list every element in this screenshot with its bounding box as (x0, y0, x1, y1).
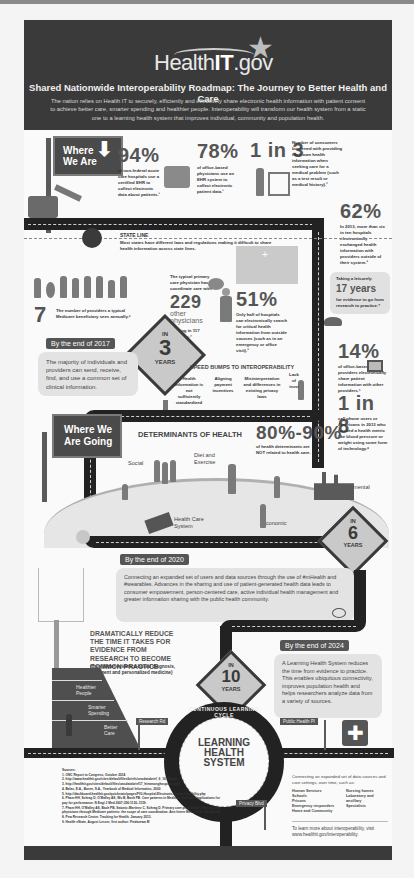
road-segment (354, 570, 366, 620)
social-figure (170, 460, 176, 482)
learn-more-link[interactable]: To learn more about interoperability, vi… (292, 826, 388, 838)
header-description: The nation relies on Health IT to secure… (48, 97, 368, 122)
determinant-social: Social (128, 460, 143, 467)
infographic-poster: ★ HealthIT.gov Shared Nationwide Interop… (24, 20, 392, 860)
data-sources-col2: Nursing homes Laboratory and ancillary S… (346, 789, 386, 815)
stat-94-text: of non-federal acute care hospitals use … (118, 168, 162, 198)
stat-1in8-text: cell phone users or Americans in 2013 wh… (338, 416, 388, 452)
where-we-are-going-sign: Where We Are Going (52, 414, 122, 458)
street-sign-privacy-blvd: Privacy Blvd (236, 800, 267, 807)
road-lane-marking (232, 626, 356, 627)
street-sign-public-health-pl: Public Health Pl (280, 718, 318, 725)
speed-bump-item: Lack of trust (288, 372, 300, 390)
excavator-arm-icon (54, 184, 82, 201)
hospital-building-icon: + (236, 246, 298, 284)
milestone-2017-tag: By the end of 2017 (46, 338, 115, 349)
ambulance-icon: ✚ (342, 720, 368, 746)
ramp-label-smarter-spending: Smarter Spending (88, 704, 118, 716)
milestone-10-years-text: IN 10 YEARS (206, 662, 256, 692)
stat-51-text: Only half of hospitals can electronicall… (236, 312, 288, 354)
exercise-figure (228, 464, 236, 494)
footer-bar (24, 846, 392, 860)
data-sources-block: Connecting an expanded set of data sourc… (292, 774, 388, 838)
walking-person-figure (66, 714, 72, 736)
hand-truck-icon (268, 172, 290, 196)
speed-bumps-title: SPEED BUMPS TO INTEROPERABILITY (190, 364, 294, 370)
milestone-3-years-text: IN 3 YEARS (136, 331, 194, 365)
street-sign-pole (324, 720, 326, 750)
ramp-step (52, 680, 102, 681)
stat-1in3-text: Number of consumers burdened with provid… (292, 140, 344, 188)
determinant-health-care-system: Health Care System (174, 516, 208, 530)
cyclist-icon (332, 608, 346, 618)
milestone-6-years-text: IN 6 YEARS (328, 518, 378, 548)
determinants-text: of health determinants are NOT related t… (256, 444, 312, 456)
stat-78-value: 78% (197, 140, 239, 163)
milestone-2024-text: A Learning Health System reduces the tim… (274, 654, 382, 718)
where-we-are-sign: Where We Are ⬇ (53, 136, 123, 176)
tennis-player-figure (122, 484, 128, 500)
determinants-value: 80%-90% (256, 422, 342, 444)
determinant-diet-exercise: Diet and Exercise (194, 452, 224, 466)
header-banner: ★ HealthIT.gov Shared Nationwide Interop… (24, 20, 392, 130)
divider (292, 821, 388, 822)
speed-bump-item: Health information is not sufficiently s… (174, 376, 204, 406)
us-map-icon (82, 228, 102, 248)
ramp-step (52, 720, 128, 721)
state-line-title: STATE LINE (120, 232, 151, 238)
evidence-block-subtitle: (thus better evidence-based diagnosis, t… (90, 664, 186, 676)
stat-7-value: 7 (34, 302, 47, 328)
tablet-icon (164, 166, 190, 188)
milestone-2024-tag: By the end of 2024 (280, 640, 349, 651)
frame-outline (38, 568, 84, 622)
speed-bump-item: Misinterpretation and differences in exi… (242, 376, 282, 400)
speed-bump-item: Aligning payment incentives (212, 376, 234, 394)
people-group-illustration (34, 272, 129, 298)
road-lane-marking (28, 224, 313, 225)
stat-78-text: of office-based physicians use an EHR sy… (197, 165, 237, 195)
evidence-intro: Taking a leisurely (336, 276, 386, 282)
stat-62-value: 62% (340, 200, 382, 223)
ramp-label-healthier-people: Healthier People (76, 684, 106, 696)
speech-bubble-icon (208, 278, 224, 290)
computer-monitor-icon (367, 360, 383, 372)
stat-62-text: In 2013, more than six in ten hospitals … (340, 224, 388, 266)
window-top-bar (0, 0, 414, 4)
evidence-value: 17 years (336, 283, 376, 294)
businesswoman-figure (260, 504, 266, 528)
yoga-figure (274, 476, 280, 498)
street-sign-research-rd: Research Rd (136, 718, 168, 725)
milestone-2020-text: Connecting an expanded set of users and … (116, 568, 354, 622)
doctor-figure (220, 296, 232, 322)
continuous-learning-cycle-label: CONTINUOUS LEARNING CYCLE (183, 706, 265, 718)
road-lane-marking (96, 416, 310, 417)
sign-pole (54, 620, 59, 670)
doctor-head (222, 288, 230, 296)
sign-pole (42, 432, 47, 502)
social-figure (162, 462, 168, 484)
state-line-divider (24, 238, 392, 239)
down-arrow-icon: ⬇ (96, 144, 113, 155)
determinants-title: DETERMINANTS OF HEALTH (138, 430, 242, 439)
learning-health-system-title: LEARNING HEALTH SYSTEM (179, 738, 269, 768)
factory-icon (314, 472, 354, 500)
excavator-icon (28, 196, 58, 218)
stat-51-value: 51% (236, 288, 278, 311)
sources-list: Sources: 1. ONC Report to Congress, Octo… (62, 768, 222, 824)
stat-229-label: other physicians (170, 310, 210, 324)
tree-icon (76, 530, 90, 544)
healthit-logo[interactable]: HealthIT.gov (154, 50, 273, 76)
stat-7-text: The number of providers a typical Medica… (56, 308, 136, 320)
data-sources-intro: Connecting an expanded set of data sourc… (292, 774, 388, 786)
social-figure (154, 460, 160, 482)
ramp-step (52, 700, 114, 701)
ramp-label-better-care: Better Care (104, 724, 124, 736)
stat-94-value: 94% (118, 144, 160, 167)
worker-figure (256, 168, 264, 196)
milestone-2017-text: The majority of individuals and provider… (38, 352, 138, 396)
evidence-text: for evidence to go from research to prac… (336, 297, 388, 309)
data-sources-col1: Human Services Schools Prisons Emergency… (292, 789, 340, 815)
turtle-icon (324, 317, 342, 326)
milestone-2020-tag: By the end of 2020 (120, 554, 189, 565)
